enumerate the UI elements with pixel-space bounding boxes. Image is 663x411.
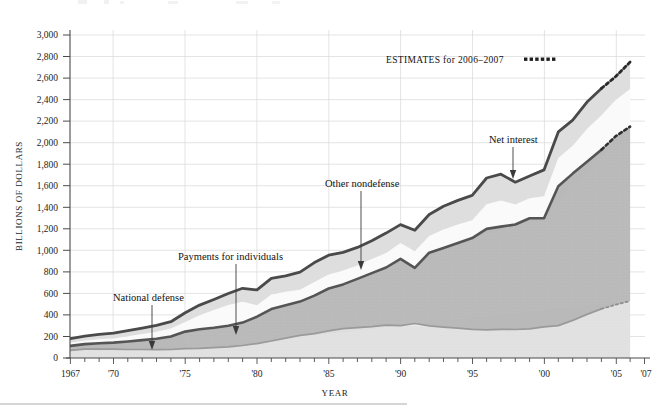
y-tick-label: 1,600 (37, 181, 59, 191)
x-tick-label: '05 (611, 369, 622, 379)
x-tick-label: '70 (108, 369, 119, 379)
y-tick-label: 3,000 (37, 30, 59, 40)
x-tick-label: '07 (640, 369, 651, 379)
x-tick-label: '00 (539, 369, 550, 379)
y-tick-label: 2,600 (37, 73, 59, 83)
estimates-legend-label: ESTIMATES for 2006–2007 (386, 55, 504, 65)
x-tick-label: '95 (467, 369, 478, 379)
y-tick-label: 200 (44, 332, 59, 342)
annotation-label-other-nondefense: Other nondefense (325, 178, 400, 189)
y-axis-title: BILLIONS OF DOLLARS (14, 141, 24, 251)
figure-container: 0 200 400 600 800 1,000 1,200 1,400 1,60… (0, 0, 663, 411)
x-tick-label: 1967 (61, 369, 80, 379)
x-tick-label: '80 (251, 369, 262, 379)
y-tick-label: 2,400 (37, 95, 59, 105)
y-tick-label: 600 (44, 289, 59, 299)
y-tick-label: 2,200 (37, 116, 59, 126)
annotation-label-payments: Payments for individuals (178, 251, 283, 262)
annotation-label-net-interest: Net interest (489, 134, 538, 145)
annotation-label-national-defense: National defense (113, 292, 184, 303)
spending-area-chart: 0 200 400 600 800 1,000 1,200 1,400 1,60… (0, 0, 663, 411)
y-tick-label: 400 (44, 310, 59, 320)
x-axis-title: YEAR (322, 388, 349, 398)
x-tick-label: '75 (180, 369, 191, 379)
y-tick-label: 1,000 (37, 246, 59, 256)
y-tick-label: 1,200 (37, 224, 59, 234)
y-tick-label: 2,800 (37, 52, 59, 62)
x-tick-label: '85 (323, 369, 334, 379)
y-tick-label: 800 (44, 267, 59, 277)
y-tick-label: 1,400 (37, 203, 59, 213)
x-tick-label: '90 (395, 369, 406, 379)
y-tick-label: 2,000 (37, 138, 59, 148)
y-tick-label: 1,800 (37, 160, 59, 170)
y-tick-label: 0 (53, 353, 58, 363)
